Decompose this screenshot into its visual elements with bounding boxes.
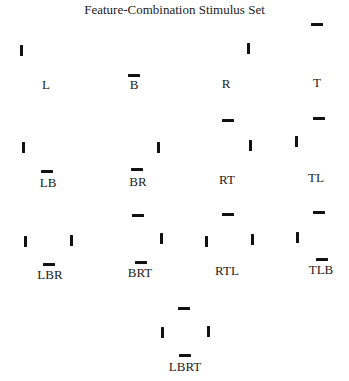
- horizontal-bar: [316, 258, 328, 261]
- vertical-bar: [22, 142, 25, 153]
- stimulus-label: T: [313, 75, 321, 91]
- stimulus-label: TL: [308, 170, 324, 186]
- horizontal-bar: [179, 354, 191, 357]
- vertical-bar: [207, 326, 210, 337]
- horizontal-bar: [178, 307, 190, 310]
- horizontal-bar: [313, 117, 325, 120]
- stimulus-label: RT: [219, 172, 235, 188]
- vertical-bar: [296, 232, 299, 243]
- stimulus-label: L: [42, 77, 50, 93]
- vertical-bar: [295, 136, 298, 147]
- horizontal-bar: [131, 168, 143, 171]
- vertical-bar: [251, 234, 254, 245]
- stimulus-label: LBRT: [169, 359, 201, 375]
- stimulus-label: RTL: [215, 263, 239, 279]
- stimulus-label: LB: [40, 175, 57, 191]
- horizontal-bar: [132, 214, 144, 217]
- horizontal-bar: [41, 170, 53, 173]
- vertical-bar: [157, 142, 160, 153]
- vertical-bar: [247, 43, 250, 54]
- stimulus-label: LBR: [37, 267, 62, 283]
- horizontal-bar: [313, 211, 325, 214]
- vertical-bar: [249, 140, 252, 151]
- vertical-bar: [160, 233, 163, 244]
- horizontal-bar: [311, 23, 323, 26]
- stimulus-label: BR: [129, 174, 146, 190]
- vertical-bar: [70, 235, 73, 246]
- vertical-bar: [20, 45, 23, 56]
- stimulus-label: TLB: [309, 262, 334, 278]
- stimulus-label: B: [130, 77, 139, 93]
- vertical-bar: [24, 236, 27, 247]
- stimulus-label: R: [222, 76, 231, 92]
- horizontal-bar: [222, 213, 234, 216]
- horizontal-bar: [135, 261, 147, 264]
- horizontal-bar: [222, 119, 234, 122]
- figure-title: Feature-Combination Stimulus Set: [0, 2, 349, 18]
- stimulus-label: BRT: [128, 265, 153, 281]
- vertical-bar: [161, 327, 164, 338]
- vertical-bar: [205, 236, 208, 247]
- horizontal-bar: [43, 263, 55, 266]
